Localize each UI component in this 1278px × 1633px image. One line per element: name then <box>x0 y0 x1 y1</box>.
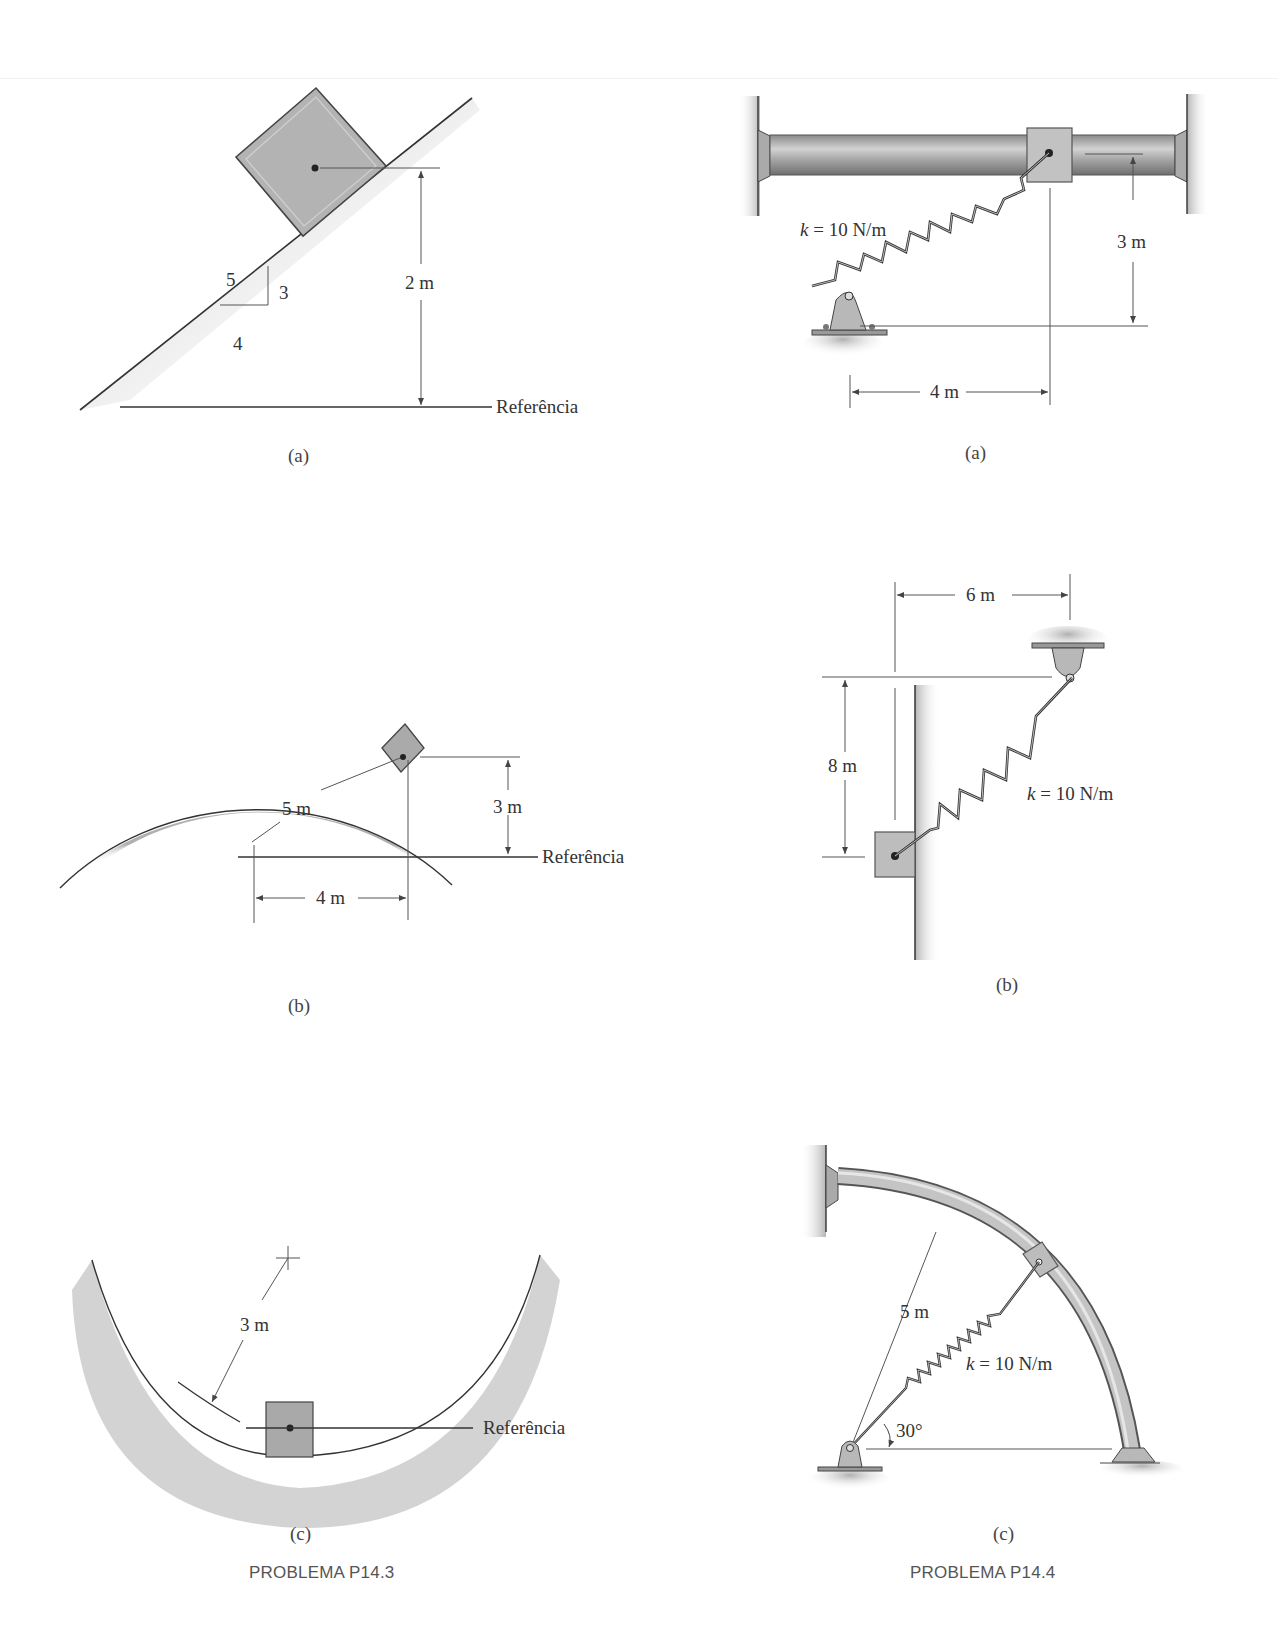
textbook-figure-page: 5 3 4 2 m Referência (a) <box>0 0 1278 1633</box>
datum-label: Referência <box>496 396 579 417</box>
caption-c-right: (c) <box>993 1523 1014 1545</box>
spring-constant-label: k = 10 N/m <box>966 1353 1052 1374</box>
spring-constant-label: k = 10 N/m <box>800 219 886 240</box>
block <box>236 88 386 236</box>
vertical-label: 8 m <box>828 755 857 776</box>
fig-p143-b-dome: 5 m 3 m Referência 4 m (b) <box>60 724 625 1017</box>
caption-a-left: (a) <box>288 445 309 467</box>
datum-label: Referência <box>483 1417 566 1438</box>
angle-label: 30° <box>896 1420 923 1441</box>
fig-p144-b-vertical-wall: 6 m 8 m k = 10 N/m (b) <box>822 574 1113 996</box>
problem-title-left: PROBLEMA P14.3 <box>249 1563 394 1582</box>
vertical-label: 3 m <box>1117 231 1146 252</box>
radius-label: 3 m <box>240 1314 269 1335</box>
caption-b-right: (b) <box>996 974 1018 996</box>
slope-hyp-label: 5 <box>226 269 236 290</box>
caption-b-left: (b) <box>288 995 310 1017</box>
caption-a-right: (a) <box>965 442 986 464</box>
end-support <box>1100 1448 1184 1480</box>
slope-rise-label: 3 <box>279 282 289 303</box>
fig-p144-c-curved-rod: 5 m 30° k = 10 N/m (c) PROBLEMA P14.4 <box>800 1145 1184 1582</box>
fig-p143-a-incline: 5 3 4 2 m Referência (a) <box>80 88 579 467</box>
figures-canvas: 5 3 4 2 m Referência (a) <box>0 0 1278 1633</box>
block <box>382 724 424 772</box>
horizontal-label: 6 m <box>966 584 995 605</box>
radius-label: 5 m <box>282 798 311 819</box>
fig-p144-a-horizontal-rod: 3 m 4 m k = 10 N/m (a) <box>738 94 1209 464</box>
caption-c-left: (c) <box>290 1523 311 1545</box>
spring-constant-label: k = 10 N/m <box>1027 783 1113 804</box>
problem-title-right: PROBLEMA P14.4 <box>910 1563 1055 1582</box>
horizontal-label: 4 m <box>316 887 345 908</box>
slope-run-label: 4 <box>233 333 243 354</box>
height-label: 2 m <box>405 272 434 293</box>
ceiling-pin-support <box>1028 626 1108 682</box>
radius-label: 5 m <box>900 1301 929 1322</box>
horizontal-label: 4 m <box>930 381 959 402</box>
datum-label: Referência <box>542 846 625 867</box>
height-label: 3 m <box>493 796 522 817</box>
fig-p143-c-bowl: 3 m Referência (c) PROBLEMA P14.3 <box>72 1246 566 1582</box>
